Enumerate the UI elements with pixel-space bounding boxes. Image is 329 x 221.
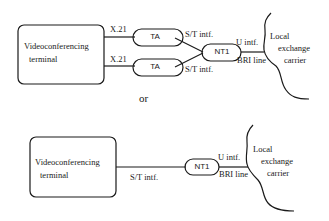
top-ta-label-1: TA <box>140 32 170 41</box>
top-st-label-1: S/T intf. <box>185 29 213 39</box>
top-x21-label-1: X.21 <box>110 24 127 34</box>
top-ta-label-2: TA <box>140 62 170 71</box>
bottom-nt1-label: NT1 <box>186 162 218 171</box>
bottom-carrier-line2: exchange <box>253 155 293 167</box>
top-terminal-label: Videoconferencing terminal <box>24 40 89 66</box>
bottom-st-label: S/T intf. <box>130 172 158 182</box>
top-bri-label: BRI line <box>237 55 266 65</box>
bottom-terminal-line1: Videoconferencing <box>35 156 100 169</box>
bottom-carrier-line3: carrier <box>253 167 293 179</box>
top-u-label: U intf. <box>236 37 258 47</box>
top-st-label-2: S/T intf. <box>185 64 213 74</box>
bottom-bri-label: BRI line <box>219 169 248 179</box>
top-carrier-line3: carrier <box>270 54 310 66</box>
bottom-terminal-label: Videoconferencing terminal <box>35 156 100 182</box>
top-x21-label-2: X.21 <box>110 54 127 64</box>
bottom-terminal-line2: terminal <box>35 169 100 182</box>
top-carrier-line2: exchange <box>270 42 310 54</box>
top-terminal-line1: Videoconferencing <box>24 40 89 53</box>
top-terminal-line2: terminal <box>24 53 89 66</box>
bottom-carrier-label: Local exchange carrier <box>253 143 293 179</box>
top-nt1-label: NT1 <box>204 47 240 56</box>
top-carrier-label: Local exchange carrier <box>270 30 310 66</box>
bottom-u-label: U intf. <box>218 152 240 162</box>
top-carrier-line1: Local <box>270 30 310 42</box>
or-separator: or <box>139 92 148 104</box>
bottom-carrier-line1: Local <box>253 143 293 155</box>
